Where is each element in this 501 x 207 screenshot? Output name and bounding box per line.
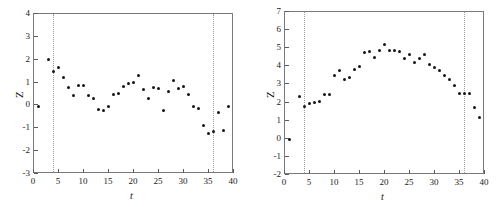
y-tick [285,47,289,48]
data-point [378,49,381,52]
data-point [182,85,185,88]
data-point [288,138,291,141]
data-point [313,101,316,104]
vertical-guide-line [304,12,305,173]
data-point [403,57,406,60]
y-tick-label: 0 [26,100,31,109]
x-tick-label: 40 [480,178,489,187]
x-tick-label: 30 [179,177,188,186]
data-point [393,49,396,52]
data-point [463,92,466,95]
y-tick-label: 2 [26,54,31,63]
y-tick [285,174,289,175]
data-point [162,109,165,112]
data-point [368,50,371,53]
x-tick [108,169,109,173]
y-tick [34,82,38,83]
y-tick-label: 4 [277,61,282,70]
x-tick [233,169,234,173]
data-point [358,65,361,68]
y-tick [285,65,289,66]
data-point [147,97,150,100]
data-point [217,111,220,114]
y-tick [285,83,289,84]
y-tick-label: 6 [277,25,282,34]
x-tick-label: 15 [355,178,364,187]
y-tick [285,156,289,157]
data-point [112,93,115,96]
vertical-guide-line [213,14,214,172]
y-tick-label: 2 [277,97,282,106]
figure-container: -3-2-1012340510152025303540 Z t -2-10123… [0,0,501,207]
vertical-guide-line [53,14,54,172]
data-point [388,49,391,52]
data-point [348,76,351,79]
data-point [383,43,386,46]
y-tick [285,29,289,30]
data-point [398,50,401,53]
x-tick-label: 5 [56,177,61,186]
data-point [438,69,441,72]
data-point [433,66,436,69]
data-point [192,105,195,108]
x-tick-label: 20 [129,177,138,186]
x-tick-label: 15 [104,177,113,186]
plot-area-right [284,11,484,174]
y-tick-label: -2 [23,146,31,155]
data-point [458,92,461,95]
data-point [373,56,376,59]
x-tick-label: 0 [31,177,36,186]
y-tick-label: 3 [26,31,31,40]
x-tick-label: 10 [330,178,339,187]
x-tick [384,170,385,174]
data-point [207,132,210,135]
data-point [202,124,205,127]
data-point [298,95,301,98]
data-point [167,90,170,93]
data-point [177,87,180,90]
data-point [418,57,421,60]
x-tick [484,170,485,174]
y-tick-label: -2 [274,170,282,179]
y-tick-label: -3 [23,169,31,178]
data-point [52,70,55,73]
x-tick [334,170,335,174]
x-axis-label-left: t [130,190,133,201]
data-point [172,79,175,82]
x-tick [58,169,59,173]
y-tick-label: 5 [277,43,282,52]
x-tick-label: 10 [79,177,88,186]
x-tick-label: 20 [380,178,389,187]
data-point [308,102,311,105]
data-point [72,94,75,97]
x-tick [359,170,360,174]
y-tick-label: 1 [277,115,282,124]
x-tick-label: 0 [282,178,287,187]
y-axis-label-left: Z [13,91,25,98]
y-tick [285,11,289,12]
y-tick [34,13,38,14]
y-tick [34,127,38,128]
y-axis-label-right: Z [264,91,276,98]
data-point [453,84,456,87]
data-point [363,51,366,54]
x-tick [83,169,84,173]
chart-panel-right: -2-1012345670510152025303540 Z t [250,0,501,207]
data-point [227,105,230,108]
data-point [47,58,50,61]
y-tick [34,150,38,151]
data-point [137,74,140,77]
data-point [448,78,451,81]
x-tick [158,169,159,173]
data-point [318,100,321,103]
data-point [92,97,95,100]
y-tick [285,120,289,121]
data-point [413,61,416,64]
data-point [443,74,446,77]
plot-area-left [33,13,233,173]
y-tick [34,36,38,37]
x-tick-label: 25 [405,178,414,187]
data-point [122,85,125,88]
x-tick [208,169,209,173]
y-tick-label: -1 [23,123,31,132]
